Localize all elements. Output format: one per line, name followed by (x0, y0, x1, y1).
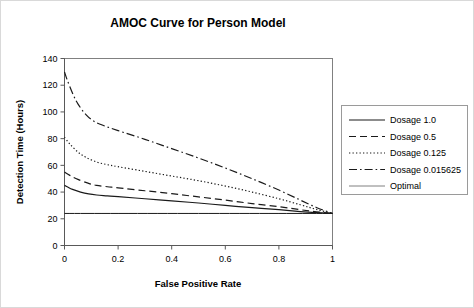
series-lines (65, 72, 333, 214)
x-tick-label: 0.4 (165, 254, 178, 264)
x-axis-ticks: 00.20.40.60.81 (62, 246, 335, 264)
amoc-chart: AMOC Curve for Person Model 020406080100… (1, 1, 474, 308)
x-axis-label: False Positive Rate (155, 278, 242, 289)
chart-figure: AMOC Curve for Person Model 020406080100… (0, 0, 474, 308)
x-tick-label: 0.6 (219, 254, 232, 264)
x-tick-label: 1 (330, 254, 335, 264)
y-tick-label: 60 (47, 161, 57, 171)
y-tick-label: 80 (47, 134, 57, 144)
legend-label: Dosage 1.0 (390, 115, 436, 125)
legend-label: Dosage 0.015625 (390, 165, 461, 175)
chart-legend: Dosage 1.0Dosage 0.5Dosage 0.125Dosage 0… (342, 106, 468, 195)
series-line-dosage-0-015625 (65, 72, 333, 214)
y-tick-label: 0 (52, 241, 57, 251)
y-tick-label: 20 (47, 214, 57, 224)
legend-label: Dosage 0.125 (390, 148, 446, 158)
plot-frame (65, 59, 333, 246)
series-line-dosage-0-125 (65, 137, 333, 213)
y-axis-ticks: 020406080100120140 (42, 54, 64, 251)
plot-area (65, 59, 333, 246)
x-tick-label: 0 (62, 254, 67, 264)
legend-label: Dosage 0.5 (390, 132, 436, 142)
x-tick-label: 0.8 (273, 254, 286, 264)
series-line-dosage-1-0 (65, 185, 333, 213)
y-axis-label: Detection Time (Hours) (14, 100, 25, 204)
chart-title: AMOC Curve for Person Model (110, 16, 285, 30)
y-tick-label: 140 (42, 54, 57, 64)
legend-label: Optimal (390, 181, 421, 191)
y-tick-label: 120 (42, 80, 57, 90)
series-line-dosage-0-5 (65, 172, 333, 213)
y-tick-label: 40 (47, 187, 57, 197)
y-tick-label: 100 (42, 107, 57, 117)
x-tick-label: 0.2 (112, 254, 125, 264)
